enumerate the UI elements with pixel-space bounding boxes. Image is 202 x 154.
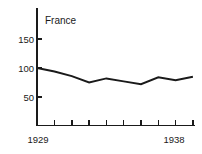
chart-title: France <box>45 15 77 26</box>
chart-container: 150 100 50 1929 1938 France <box>0 0 202 154</box>
x-tick-labels: 1929 1938 <box>27 134 184 145</box>
x-axis-label-start: 1929 <box>27 134 48 145</box>
y-tick-labels: 150 100 50 <box>18 34 34 103</box>
y-axis-label-150: 150 <box>18 34 34 45</box>
data-series-line <box>37 68 193 84</box>
y-axis-label-50: 50 <box>23 92 34 103</box>
line-chart: 150 100 50 1929 1938 France <box>0 0 202 154</box>
x-tick-marks <box>37 120 193 126</box>
x-axis-label-end: 1938 <box>163 134 184 145</box>
y-axis-label-100: 100 <box>18 63 34 74</box>
